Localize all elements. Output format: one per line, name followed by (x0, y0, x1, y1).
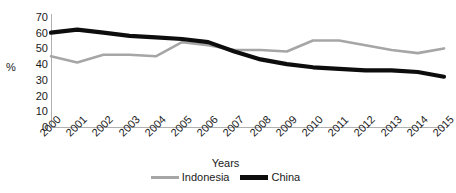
chart-legend: IndonesiaChina (0, 172, 451, 183)
x-tick-label: 2014 (405, 114, 430, 139)
x-tick-label: 2002 (90, 114, 115, 139)
x-tick-label: 2012 (352, 114, 377, 139)
x-tick-label: 2007 (221, 114, 246, 139)
x-tick-label: 2011 (326, 114, 351, 139)
x-tick-label: 2009 (274, 114, 299, 139)
legend-label: China (271, 172, 300, 183)
x-tick-label: 2000 (38, 114, 63, 139)
x-tick-label: 2010 (300, 114, 325, 139)
black-thick-line-swatch (240, 175, 268, 180)
legend-entry[interactable]: Indonesia (151, 172, 230, 183)
x-tick-label: 2015 (431, 114, 456, 139)
x-tick-label: 2013 (379, 114, 404, 139)
legend-entry[interactable]: China (240, 172, 300, 183)
x-axis-title: Years (0, 158, 451, 169)
x-tick-label: 2006 (195, 114, 220, 139)
x-tick-label: 2005 (169, 114, 194, 139)
legend-label: Indonesia (182, 172, 230, 183)
x-tick-label: 2004 (143, 114, 168, 139)
x-tick-label: 2001 (64, 114, 89, 139)
gray-thin-line-swatch (151, 176, 179, 179)
x-tick-label: 2003 (117, 114, 142, 139)
x-tick-label: 2008 (248, 114, 273, 139)
